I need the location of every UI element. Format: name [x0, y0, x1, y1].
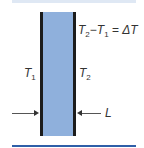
right-thickness-arrow-icon: [80, 113, 101, 114]
right-face-temperature-label: T2: [79, 66, 91, 80]
thickness-label: L: [105, 106, 112, 120]
bottom-rule: [12, 145, 136, 147]
left-face-temperature-label: T1: [24, 66, 36, 80]
t2-subscript: 2: [86, 73, 90, 82]
eq-equals: =: [109, 23, 123, 37]
top-strip: [12, 0, 136, 3]
t1-subscript: 1: [31, 73, 35, 82]
eq-minus: −: [90, 23, 97, 37]
temperature-difference-equation: T2−T1 = ΔT: [78, 23, 138, 37]
left-thickness-arrow-icon: [12, 113, 36, 114]
eq-delta-t: ΔT: [122, 23, 137, 37]
slab: [40, 12, 76, 136]
